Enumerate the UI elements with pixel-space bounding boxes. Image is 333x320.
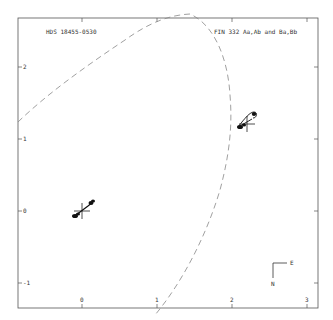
x-tick-label: 2 <box>230 296 234 303</box>
y-tick-label: -1 <box>23 279 31 286</box>
y-tick-label: 1 <box>23 135 27 142</box>
cluster-ba-bb <box>237 112 257 132</box>
y-axis-ticks <box>18 67 318 283</box>
compass-indicator <box>273 263 287 278</box>
system-label-left: HDS 18455-0530 <box>46 28 97 35</box>
y-tick-label: 2 <box>23 63 27 70</box>
x-tick-label: 3 <box>305 296 309 303</box>
x-tick-label: 0 <box>80 296 84 303</box>
compass-north-label: N <box>271 280 275 287</box>
compass-east-label: E <box>290 259 294 266</box>
y-tick-label: 0 <box>23 207 27 214</box>
x-tick-label: 1 <box>155 296 159 303</box>
cluster-aa-ab <box>72 200 95 220</box>
orbit-chart: 0 1 2 3 2 1 0 -1 HDS 18455-0530 FIN 332 … <box>0 0 333 320</box>
outer-orbit-dashed <box>18 14 231 315</box>
system-label-right: FIN 332 Aa,Ab and Ba,Bb <box>214 28 297 35</box>
